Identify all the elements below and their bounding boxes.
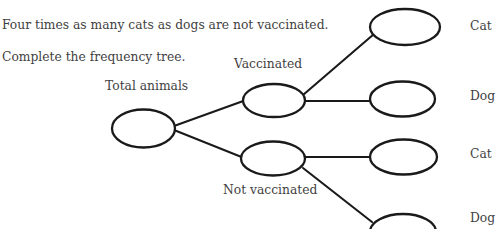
label-not-vaccinated: Not vaccinated: [223, 183, 317, 197]
line-vaccinated-to-cat: [303, 34, 374, 95]
node-not-vaccinated-dog[interactable]: [370, 214, 436, 229]
line-root-to-not-vaccinated: [174, 130, 244, 158]
node-total-animals[interactable]: [112, 110, 175, 148]
frequency-tree-worksheet: Four times as many cats as dogs are not …: [0, 0, 500, 229]
node-not-vaccinated[interactable]: [241, 142, 305, 176]
label-vaccinated-dog: Dog: [470, 89, 495, 103]
node-not-vaccinated-cat[interactable]: [370, 140, 437, 175]
line-root-to-vaccinated: [174, 100, 246, 126]
label-vaccinated: Vaccinated: [234, 57, 302, 71]
label-not-vaccinated-dog: Dog: [470, 211, 495, 225]
label-vaccinated-cat: Cat: [470, 19, 492, 33]
node-vaccinated-dog[interactable]: [370, 82, 435, 117]
label-not-vaccinated-cat: Cat: [470, 147, 492, 161]
node-vaccinated[interactable]: [243, 84, 305, 117]
label-total-animals: Total animals: [105, 79, 188, 93]
node-vaccinated-cat[interactable]: [370, 9, 440, 45]
